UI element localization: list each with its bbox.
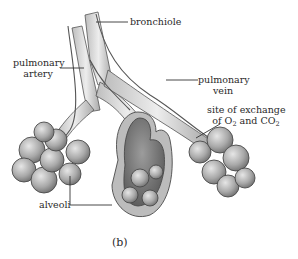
text-and-co: and CO: [237, 115, 276, 126]
label-exchange-site: site of exchange of O2 and CO2: [207, 105, 285, 129]
subscript-2: 2: [276, 120, 280, 128]
label-pulmonary-artery-line1: pulmonary: [13, 58, 63, 69]
figure-caption: (b): [112, 236, 128, 249]
label-pulmonary-vein-line2: vein: [198, 86, 248, 97]
label-pulmonary-vein-line1: pulmonary: [198, 75, 248, 86]
label-bronchiole: bronchiole: [130, 17, 181, 28]
label-pulmonary-artery-line2: artery: [13, 69, 63, 80]
label-pulmonary-artery: pulmonary artery: [13, 58, 63, 79]
label-pulmonary-vein: pulmonary vein: [198, 75, 248, 96]
label-alveoli: alveoli: [39, 200, 71, 211]
central-alveolar-sac: [112, 112, 172, 217]
left-alveolar-cluster: [12, 122, 90, 193]
alveoli-illustration: [0, 0, 298, 259]
text-of-o: of O: [212, 115, 232, 126]
label-exchange-line2: of O2 and CO2: [207, 116, 285, 130]
